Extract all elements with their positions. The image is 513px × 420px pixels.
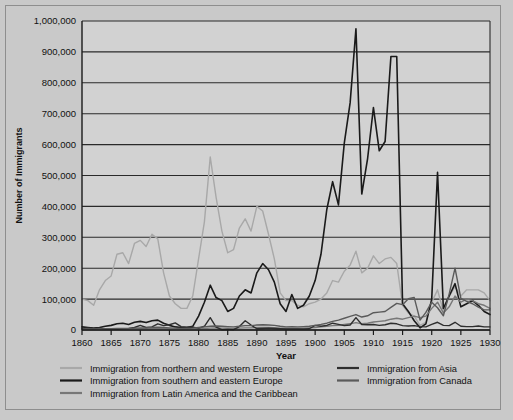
x-axis-tick-label: 1915 xyxy=(392,337,413,348)
legend-item-left-label-0: Immigration from northern and western Eu… xyxy=(90,364,283,374)
y-axis-tick-label: 200,000 xyxy=(42,263,76,274)
y-axis-title: Number of Immigrants xyxy=(14,127,24,223)
immigration-line-chart: 0100,000200,000300,000400,000500,000600,… xyxy=(0,0,513,420)
chart-svg: 0100,000200,000300,000400,000500,000600,… xyxy=(0,0,513,420)
x-axis-tick-label: 1925 xyxy=(450,337,471,348)
legend-item-left-label-1: Immigration from southern and eastern Eu… xyxy=(90,376,283,386)
x-axis-tick-label: 1920 xyxy=(421,337,442,348)
y-axis-tick-label: 1,000,000 xyxy=(34,15,76,26)
legend-item-left-label-2: Immigration from Latin America and the C… xyxy=(90,389,298,399)
y-axis-tick-label: 100,000 xyxy=(42,294,76,305)
x-axis-tick-label: 1875 xyxy=(159,337,180,348)
x-axis-tick-label: 1870 xyxy=(130,337,151,348)
x-axis-tick-label: 1895 xyxy=(275,337,296,348)
y-axis-tick-label: 400,000 xyxy=(42,201,76,212)
x-axis-tick-label: 1930 xyxy=(479,337,500,348)
y-axis-tick-label: 800,000 xyxy=(42,77,76,88)
y-axis-tick-label: 500,000 xyxy=(42,170,76,181)
x-axis-tick-label: 1885 xyxy=(217,337,238,348)
x-axis-tick-label: 1910 xyxy=(363,337,384,348)
x-axis-tick-label: 1860 xyxy=(71,337,92,348)
y-axis-tick-label: 900,000 xyxy=(42,46,76,57)
x-axis-tick-label: 1900 xyxy=(305,337,326,348)
x-axis-tick-label: 1880 xyxy=(188,337,209,348)
x-axis-tick-label: 1890 xyxy=(246,337,267,348)
x-axis-tick-label: 1905 xyxy=(334,337,355,348)
x-axis-tick-label: 1865 xyxy=(101,337,122,348)
legend-item-right-label-0: Immigration from Asia xyxy=(367,364,458,374)
y-axis-tick-label: 300,000 xyxy=(42,232,76,243)
x-axis-title: Year xyxy=(276,350,296,361)
y-axis-tick-label: 600,000 xyxy=(42,139,76,150)
legend-item-right-label-1: Immigration from Canada xyxy=(367,376,473,386)
y-axis-tick-label: 0 xyxy=(71,324,76,335)
y-axis-tick-label: 700,000 xyxy=(42,108,76,119)
